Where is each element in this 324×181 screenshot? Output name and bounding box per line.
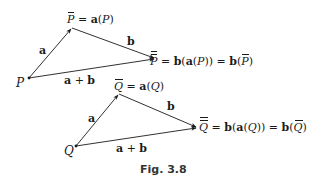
edge-b-label-top: b <box>127 36 135 47</box>
top-triangle <box>28 28 154 79</box>
edge-sum-label-top: a + b <box>64 75 95 86</box>
equals-sign: = <box>74 13 90 26</box>
figure-caption: Fig. 3.8 <box>140 163 187 176</box>
equals-sign: = <box>213 55 229 68</box>
vector-a-top <box>29 29 71 78</box>
vector-composition-figure: P P = a(P) a b a + b P = b(a(P)) = b(P) … <box>0 0 324 181</box>
equals-sign: = <box>265 121 281 134</box>
edge-sum-label-bottom: a + b <box>116 143 147 154</box>
paren-close: ) <box>303 121 307 134</box>
sum-b: b <box>139 142 147 155</box>
Q-arg: Q <box>151 80 160 93</box>
edge-b-label-bottom: b <box>167 101 175 112</box>
vector-b-bottom <box>119 94 196 127</box>
vector-b-top <box>72 28 154 58</box>
point-Q-dot <box>75 145 78 148</box>
paren-close: ) <box>249 55 253 68</box>
edge-a-label-bottom: a <box>88 113 95 124</box>
point-Q-label: Q <box>64 145 74 157</box>
point-P-bar-label: P = a(P) <box>67 14 114 25</box>
map-a: a <box>186 55 193 68</box>
map-b: b <box>224 121 232 134</box>
sum-b: b <box>87 74 95 87</box>
sum-plus: + <box>123 142 139 155</box>
point-P-label: P <box>16 77 24 89</box>
sum-plus: + <box>71 74 87 87</box>
point-P-dot <box>28 77 31 80</box>
paren-close: ) <box>109 13 113 26</box>
P-bar-arg: P <box>241 56 248 67</box>
Q-arg: Q <box>248 121 257 134</box>
equals-sign: = <box>157 55 173 68</box>
P-dbar-symbol: P <box>150 56 157 67</box>
vector-a-bottom <box>76 95 118 146</box>
point-P-dbar-label: P = b(a(P)) = b(P) <box>150 56 253 67</box>
equals-sign: = <box>123 80 139 93</box>
Q-dbar-symbol: Q <box>199 122 208 133</box>
map-a: a <box>91 13 98 26</box>
paren-close: )) <box>204 55 213 68</box>
equals-sign: = <box>208 121 224 134</box>
Q-bar-symbol: Q <box>114 81 123 92</box>
paren-close: ) <box>160 80 164 93</box>
point-Q-dbar-label: Q = b(a(Q)) = b(Q) <box>199 122 307 133</box>
point-Q-bar-label: Q = a(Q) <box>114 81 164 92</box>
Q-bar-arg: Q <box>294 122 303 133</box>
edge-a-label-top: a <box>39 45 46 56</box>
P-bar-symbol: P <box>67 14 74 25</box>
map-b: b <box>229 55 237 68</box>
